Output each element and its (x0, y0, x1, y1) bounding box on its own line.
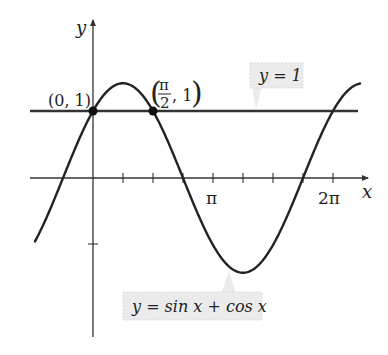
callout-label-function: y = sin x + cos x (131, 297, 267, 316)
callout-label-y1: y = 1 (258, 66, 302, 85)
fraction-rest: , 1 (172, 86, 192, 105)
fraction-denominator: 2 (160, 94, 170, 112)
point-label-pi-half-1: ( π 2 , 1 ) (150, 75, 203, 112)
x-tick-label-pi: π (206, 188, 217, 208)
point-label-0-1: (0, 1) (48, 91, 91, 110)
fraction-numerator: π (159, 76, 169, 94)
function-graph: y x π 2π (0, 1) ( π 2 , 1 ) y = 1 y = si… (0, 0, 388, 355)
x-axis-label: x (362, 181, 372, 202)
callout-function: y = sin x + cos x (123, 271, 267, 320)
callout-y-equals-1: y = 1 (250, 63, 303, 109)
svg-text:): ) (191, 75, 203, 110)
y-axis-label: y (75, 17, 87, 38)
x-tick-label-2pi: 2π (318, 188, 340, 208)
